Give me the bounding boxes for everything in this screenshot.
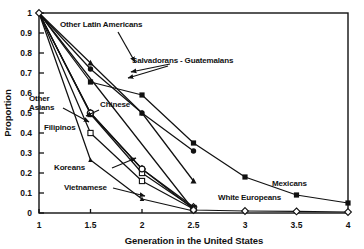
data-point [191, 140, 196, 145]
x-tick-label: 4 [346, 220, 351, 230]
y-axis-tick-labels: 00.10.20.30.40.50.60.70.80.91 [20, 8, 32, 218]
y-axis-title: Proportion [2, 89, 13, 137]
data-point [139, 178, 144, 183]
data-point [242, 174, 247, 179]
x-tick-label: 1.5 [85, 220, 97, 230]
data-point [191, 148, 196, 153]
y-tick-label: 1 [27, 8, 32, 18]
data-point [88, 66, 93, 71]
data-point [139, 166, 145, 172]
x-tick-label: 3 [243, 220, 248, 230]
annotation-filipinos: Filipinos [44, 123, 76, 132]
generation-proportion-line-chart: 11.522.533.54 00.10.20.30.40.50.60.70.80… [0, 0, 364, 249]
y-tick-label: 0.3 [20, 148, 32, 158]
y-tick-label: 0.7 [20, 68, 32, 78]
data-point [139, 92, 144, 97]
y-tick-label: 0.9 [20, 28, 32, 38]
annotation-white-europeans: White Europeans [218, 193, 282, 202]
annotation-vietnamese: Vietnamese [64, 183, 108, 192]
data-point [88, 130, 93, 135]
annotation-asians: Asians [29, 103, 55, 112]
annotation-other-latin-americans: Other Latin Americans [60, 20, 143, 29]
x-tick-label: 2 [140, 220, 145, 230]
annotation-other: Other [29, 94, 50, 103]
annotation-salvadorans-guatemalans: Salvadorans - Guatemalans [132, 56, 234, 65]
annotation-mexicans: Mexicans [272, 179, 308, 188]
x-axis-tick-labels: 11.522.533.54 [37, 220, 351, 230]
y-tick-label: 0.2 [20, 168, 32, 178]
x-tick-label: 2.5 [188, 220, 200, 230]
y-tick-label: 0.8 [20, 48, 32, 58]
x-tick-label: 3.5 [291, 220, 303, 230]
annotation-chinese: Chinese [100, 100, 131, 109]
data-point [294, 192, 299, 197]
y-tick-label: 0.4 [20, 128, 32, 138]
y-tick-label: 0 [27, 208, 32, 218]
chart-container: 11.522.533.54 00.10.20.30.40.50.60.70.80… [0, 0, 364, 249]
annotation-koreans: Koreans [54, 163, 86, 172]
x-tick-label: 1 [37, 220, 42, 230]
x-axis-title: Generation in the United States [125, 235, 263, 246]
y-tick-label: 0.1 [20, 188, 32, 198]
data-point [345, 200, 350, 205]
